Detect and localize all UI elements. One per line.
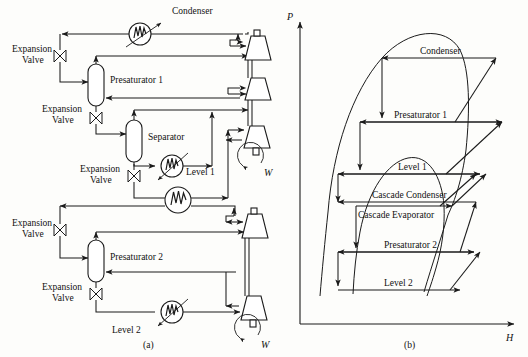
ev-upper-1-label-line1: Expansion (12, 44, 52, 54)
presaturator-1-label: Presaturator 1 (110, 75, 163, 85)
condenser-label: Condenser (172, 6, 213, 16)
ph-presaturator-1-label: Presaturator 1 (394, 110, 447, 120)
figure-container: Condenser Expansion Valve Presaturator 1… (0, 0, 528, 357)
separator-label: Separator (148, 132, 185, 142)
separator-vessel (126, 120, 142, 162)
caption-b: (b) (404, 340, 415, 351)
enthalpy-axis-label: H (505, 332, 514, 343)
ev-upper-2-label-line1: Expansion (42, 104, 82, 114)
caption-a: (a) (143, 340, 154, 351)
ph-level-1-label: Level 1 (398, 162, 427, 172)
presaturator-2-vessel (88, 240, 104, 282)
ph-cascade-condenser-label: Cascade Condenser (372, 190, 447, 200)
cascade-heat-exchanger (165, 187, 191, 213)
ev-lower-2-label-line2: Valve (52, 293, 74, 303)
presaturator-1-vessel (88, 64, 104, 106)
pressure-axis-label: P (286, 11, 293, 22)
level-1-label: Level 1 (186, 167, 215, 177)
ph-condenser-label: Condenser (420, 46, 461, 56)
ph-cascade-evaporator-label: Cascade Evaporator (358, 210, 435, 220)
ev-upper-2-label-line2: Valve (52, 115, 74, 125)
presaturator-2-label: Presaturator 2 (110, 252, 163, 262)
ph-level-2-label: Level 2 (384, 278, 413, 288)
level-2-label: Level 2 (112, 325, 141, 335)
ev-lower-1-label-line1: Expansion (12, 218, 52, 228)
ev-upper-3-label-line1: Expansion (80, 164, 120, 174)
ev-upper-3-label-line2: Valve (90, 175, 112, 185)
ev-lower-2-label-line1: Expansion (42, 282, 82, 292)
ev-upper-1-label-line2: Valve (22, 55, 44, 65)
ev-lower-1-label-line2: Valve (22, 229, 44, 239)
ph-presaturator-2-label: Presaturator 2 (384, 240, 437, 250)
